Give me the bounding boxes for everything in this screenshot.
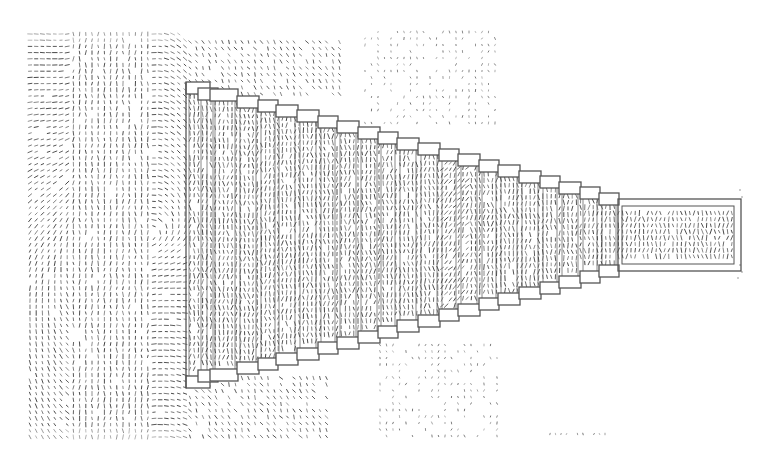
vector-arrow [194,131,195,135]
vector-arrow [104,305,105,309]
vector-arrow [399,409,400,411]
vector-arrow [86,305,87,310]
step-block-bottom [498,293,520,305]
vector-arrow [141,360,142,365]
vector-arrow [98,181,99,184]
step-block-bottom [458,304,480,316]
vector-arrow [79,237,80,241]
vector-arrow [492,197,493,201]
vector-arrow [307,402,308,405]
vector-arrow [286,284,287,288]
vector-arrow [117,81,118,86]
vector-arrow [268,376,269,380]
vector-arrow [98,398,99,402]
vector-arrow [171,375,175,376]
vector-arrow [158,65,162,66]
vector-arrow [341,139,342,143]
vector-arrow [151,325,156,326]
vector-arrow [244,195,245,199]
vector-arrow [299,320,300,324]
vector-arrow [370,189,371,193]
vector-arrow [412,168,413,174]
vector-arrow [117,156,118,160]
vector-arrow [436,122,437,124]
vector-arrow [291,166,292,171]
vector-arrow [52,96,57,97]
vector-arrow [179,224,180,228]
vector-arrow [425,377,426,379]
vector-arrow [530,213,531,219]
vector-arrow [303,147,304,151]
vector-arrow [270,118,271,123]
vector-arrow [387,237,388,242]
vector-arrow [98,125,99,128]
vector-arrow [482,44,483,46]
vector-arrow [86,125,87,129]
vector-arrow [65,40,70,41]
vector-arrow [151,344,156,345]
vector-arrow [328,308,329,312]
vector-arrow [47,114,51,115]
vector-arrow [456,70,457,72]
vector-arrow [36,336,37,340]
vector-arrow [378,31,379,33]
step-block-top [337,121,359,133]
vector-arrow [229,382,230,387]
vector-arrow [92,385,93,389]
vector-arrow [223,132,224,136]
step-block-bottom [519,287,541,299]
vector-arrow [194,317,195,322]
vector-arrow [135,348,136,353]
vector-arrow [216,409,217,412]
step-block-bottom [297,348,319,360]
vector-arrow [324,320,325,325]
vector-arrow [110,342,111,346]
vector-arrow [55,305,56,309]
vector-arrow [469,89,470,92]
step-block-bottom [337,337,359,349]
vector-arrow [300,428,301,432]
vector-arrow [408,168,409,173]
vector-arrow [129,428,130,433]
vector-arrow [79,392,80,395]
vector-arrow [732,242,733,246]
vector-arrow [639,229,640,235]
vector-arrow [370,238,371,243]
vector-arrow [148,422,149,427]
vector-arrow [228,107,229,112]
vector-arrow [585,237,586,240]
vector-arrow [110,366,111,371]
vector-arrow [92,131,93,135]
vector-arrow [135,163,136,166]
vector-arrow [98,237,99,241]
vector-arrow [417,70,418,72]
vector-arrow [648,254,649,259]
vector-arrow [98,292,99,297]
vector-arrow [198,354,199,358]
vector-arrow [299,271,300,276]
vector-arrow [387,193,388,198]
vector-arrow [117,162,118,167]
vector-arrow [28,83,33,84]
vector-arrow [53,108,57,109]
vector-arrow [255,376,256,380]
vector-arrow [129,268,130,272]
step-block-bottom [479,298,499,310]
vector-arrow [194,150,195,154]
vector-arrow [488,284,489,288]
vector-arrow [135,206,136,210]
vector-arrow [202,273,203,278]
vector-arrow [606,211,607,216]
vector-arrow [349,157,350,163]
vector-arrow [129,87,130,92]
vector-arrow [177,344,180,345]
vector-arrow [589,230,590,235]
vector-arrow [417,109,418,111]
vector-arrow [419,377,420,379]
vector-arrow [40,34,45,35]
vector-arrow [141,429,142,432]
vector-arrow [177,319,181,320]
vector-arrow [366,318,367,323]
vector-arrow [281,402,282,406]
vector-arrow [117,125,118,129]
